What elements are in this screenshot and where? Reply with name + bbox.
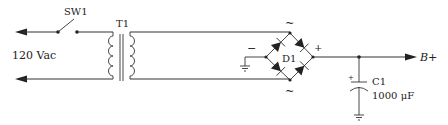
bridge-negative-label: − [247,42,256,55]
transformer-t1: T1 [109,18,291,81]
bridge-label: D1 [282,53,296,64]
ac-symbol-bottom: ~ [285,85,294,98]
circuit-diagram: 120 Vac SW1 T1 [0,0,448,125]
ac-symbol-top: ~ [285,17,294,30]
capacitor-label: C1 [372,76,386,87]
ground-icon [354,115,364,120]
input-voltage-label: 120 Vac [12,49,56,62]
capacitor-c1: + C1 1000 μF [348,57,414,120]
output-label: B+ [419,51,437,64]
output-b-plus: B+ [313,51,437,64]
output-arrow-icon [405,54,417,61]
capacitor-value-label: 1000 μF [372,90,414,101]
primary-coil-icon [109,32,114,79]
ground-negative [240,57,266,71]
ground-icon [240,66,250,71]
secondary-coil-icon [130,32,135,79]
capacitor-polarity-label: + [348,74,354,82]
switch-label: SW1 [64,6,88,17]
ac-input: 120 Vac [12,29,113,83]
switch-sw1: SW1 [56,6,113,34]
bridge-rectifier-d1: D1 ~ ~ − + [247,17,322,98]
bridge-positive-label: + [314,42,322,53]
transformer-label: T1 [116,18,129,29]
